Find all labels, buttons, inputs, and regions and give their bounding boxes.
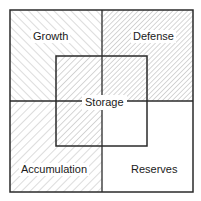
label-reserves: Reserves — [129, 163, 179, 176]
label-accumulation: Accumulation — [19, 163, 89, 176]
label-defense: Defense — [131, 30, 176, 43]
label-growth: Growth — [31, 30, 70, 43]
label-storage: Storage — [82, 95, 127, 110]
